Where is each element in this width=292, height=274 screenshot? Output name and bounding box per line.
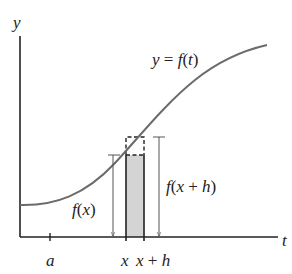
area-under-curve-diagram: y t y = f(t) f(x) f(x + h) a x x + h (0, 0, 292, 274)
tick-label-x: x (120, 251, 129, 270)
fx-label: f(x) (72, 200, 96, 219)
fxh-label: f(x + h) (166, 177, 216, 196)
t-axis-label: t (282, 231, 288, 250)
tick-label-a: a (46, 251, 55, 270)
curve-label: y = f(t) (150, 50, 198, 69)
y-axis-label: y (11, 13, 21, 32)
tick-label-x-plus-h: x + h (135, 251, 170, 270)
shaded-strip (126, 155, 144, 237)
